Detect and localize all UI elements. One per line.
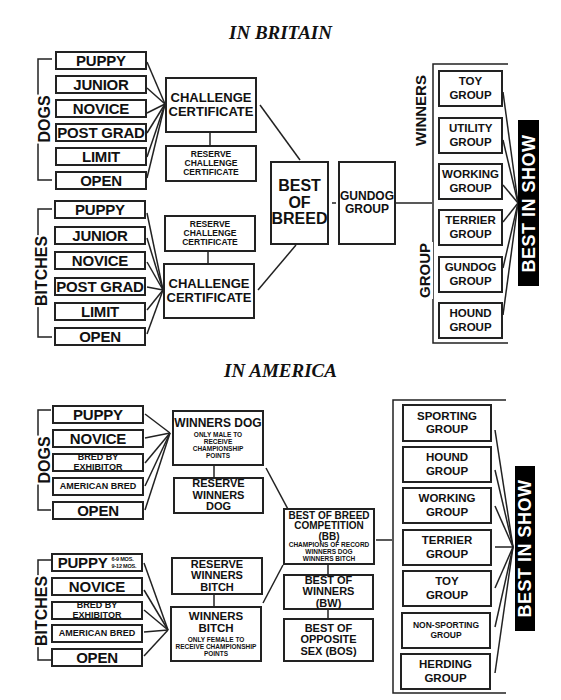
britain-group-label: GROUP [416, 242, 433, 299]
britain-group-hound: HOUND GROUP [438, 302, 503, 339]
britain-bitch-class-post-grad: POST GRAD [54, 277, 146, 296]
winners-bitch-title: WINNERS BITCH [172, 610, 260, 634]
america-group-terrier: TERRIER GROUP [402, 529, 492, 566]
britain-best-in-show-label: BEST IN SHOW [518, 134, 539, 272]
britain-dog-reserve-cc: RESERVE CHALLENGE CERTIFICATE [165, 145, 257, 182]
britain-title: IN BRITAIN [0, 22, 561, 44]
britain-dog-class-limit: LIMIT [55, 147, 147, 166]
america-winners-bitch: WINNERS BITCH ONLY FEMALE TO RECEIVE CHA… [170, 606, 262, 662]
america-group-non-sporting: NON-SPORTING GROUP [401, 612, 491, 649]
puppy-ages: 6-9 MOS. 9-12 MOS. [112, 556, 137, 568]
britain-gundog-group: GUNDOG GROUP [338, 161, 396, 245]
america-winners-dog: WINNERS DOG ONLY MALE TO RECEIVE CHAMPIO… [172, 410, 264, 466]
britain-bitch-class-open: OPEN [54, 327, 146, 346]
winners-dog-title: WINNERS DOG [174, 417, 261, 430]
britain-dog-class-post-grad: POST GRAD [55, 123, 147, 142]
britain-dog-class-open: OPEN [55, 171, 147, 190]
britain-group-toy: TOY GROUP [438, 70, 503, 107]
bob-line-winners-bitch: WINNERS BITCH [303, 556, 355, 563]
america-group-hound: HOUND GROUP [402, 446, 492, 483]
america-group-herding: HERDING GROUP [400, 653, 491, 690]
britain-group-working: WORKING GROUP [438, 163, 503, 200]
america-bitches-label: BITCHES [33, 575, 51, 647]
puppy-age-9-12: 9-12 MOS. [112, 563, 137, 569]
britain-dogs-label: DOGS [36, 94, 54, 143]
america-dog-class-american-bred: AMERICAN BRED [52, 477, 144, 496]
britain-dog-class-puppy: PUPPY [55, 51, 147, 70]
america-dog-class-puppy: PUPPY [52, 405, 144, 424]
britain-best-in-show: BEST IN SHOW [518, 120, 539, 286]
america-reserve-winners-dog: RESERVE WINNERS DOG [173, 477, 264, 514]
america-group-sporting: SPORTING GROUP [402, 404, 492, 442]
america-group-working: WORKING GROUP [402, 487, 492, 524]
america-dog-class-bred-by-exhibitor: BRED BY EXHIBITOR [52, 453, 144, 472]
britain-group-utility: UTILITY GROUP [438, 117, 503, 154]
britain-bitch-class-novice: NOVICE [54, 251, 146, 270]
america-best-in-show: BEST IN SHOW [515, 466, 535, 631]
britain-winners-label: WINNERS [412, 74, 429, 147]
america-bitch-class-bred-by-exhibitor: BRED BY EXHIBITOR [51, 601, 143, 620]
america-group-toy: TOY GROUP [402, 570, 492, 607]
america-reserve-winners-bitch: RESERVE WINNERS BITCH [171, 557, 263, 595]
britain-bitch-class-junior: JUNIOR [54, 226, 146, 245]
america-dogs-label: DOGS [36, 435, 54, 484]
britain-dog-class-junior: JUNIOR [55, 75, 147, 94]
winners-dog-note: ONLY MALE TO RECEIVE CHAMPIONSHIP POINTS [174, 432, 262, 459]
britain-bitch-class-puppy: PUPPY [54, 200, 146, 219]
bob-title: BEST OF BREED COMPETITION (BB) [285, 511, 373, 543]
britain-bitches-label: BITCHES [33, 235, 51, 307]
britain-group-gundog: GUNDOG GROUP [438, 256, 503, 293]
america-bitch-class-american-bred: AMERICAN BRED [51, 624, 143, 643]
america-best-in-show-label: BEST IN SHOW [515, 479, 536, 617]
america-best-of-winners: BEST OF WINNERS (BW) [283, 574, 374, 610]
america-best-of-opposite-sex: BEST OF OPPOSITE SEX (BOS) [283, 618, 374, 662]
britain-bitch-class-limit: LIMIT [54, 302, 146, 321]
america-dog-class-open: OPEN [52, 501, 144, 520]
britain-best-of-breed: BEST OF BREED [270, 161, 329, 245]
america-bitch-class-puppy: PUPPY 6-9 MOS. 9-12 MOS. [51, 553, 143, 572]
america-dog-class-novice: NOVICE [52, 429, 144, 448]
america-bitch-class-open: OPEN [51, 648, 143, 667]
america-title: IN AMERICA [0, 360, 561, 382]
britain-group-terrier: TERRIER GROUP [438, 209, 503, 246]
america-best-of-breed-competition: BEST OF BREED COMPETITION (BB) CHAMPIONS… [283, 508, 375, 565]
britain-bitch-reserve-cc: RESERVE CHALLENGE CERTIFICATE [164, 215, 256, 252]
puppy-label: PUPPY [58, 555, 108, 571]
winners-bitch-note: ONLY FEMALE TO RECEIVE CHAMPIONSHIP POIN… [172, 637, 260, 657]
britain-bitch-challenge-certificate: CHALLENGE CERTIFICATE [163, 263, 255, 319]
america-bitch-class-novice: NOVICE [51, 577, 143, 596]
britain-dog-class-novice: NOVICE [55, 99, 147, 118]
britain-dog-challenge-certificate: CHALLENGE CERTIFICATE [165, 77, 257, 133]
